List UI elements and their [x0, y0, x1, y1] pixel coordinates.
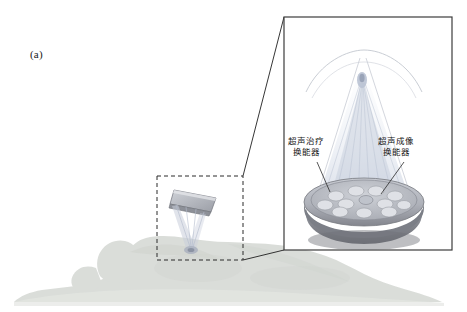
callout-connector-lines	[243, 17, 284, 260]
therapy-transducer-array	[304, 178, 424, 250]
therapy-transducer-label-line2: 换能器	[288, 147, 324, 158]
imaging-transducer-label: 超声成像 换能器	[378, 136, 414, 158]
therapy-transducer-label-line1: 超声治疗	[288, 136, 324, 147]
therapy-transducer-label: 超声治疗 换能器	[288, 136, 324, 158]
imaging-transducer-label-line1: 超声成像	[378, 136, 414, 147]
figure-panel-a: (a) 超声治疗 换能器 超声成像 换能器	[0, 0, 467, 312]
imaging-transducer-label-line2: 换能器	[378, 147, 414, 158]
page-title: (a)	[30, 48, 43, 60]
